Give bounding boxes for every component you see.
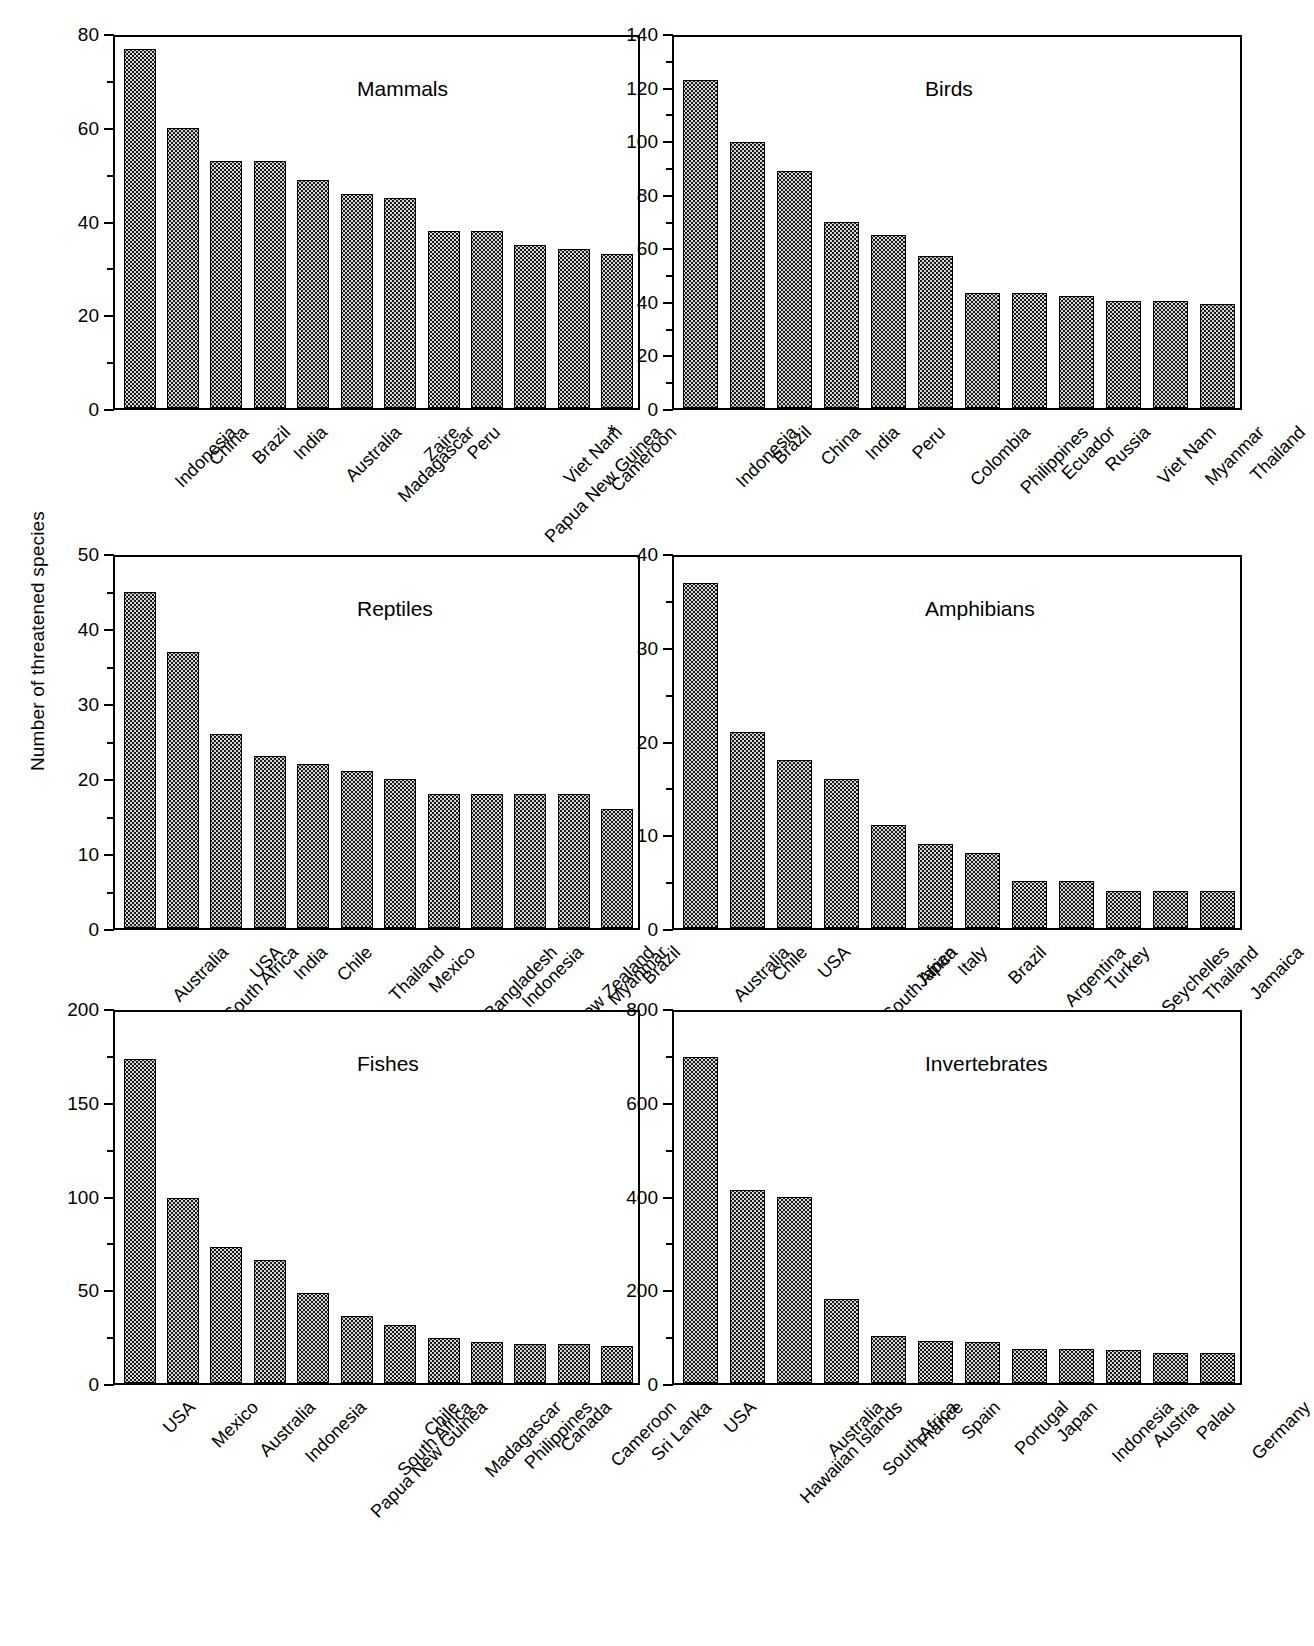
- y-tick-label: 100: [67, 1187, 99, 1209]
- bar-australia[interactable]: [210, 1247, 242, 1383]
- bar-viet-nam[interactable]: [1106, 301, 1141, 408]
- bar-usa[interactable]: [124, 1059, 156, 1384]
- bar-australia[interactable]: [297, 180, 329, 408]
- x-tick-label-australia: Australia: [342, 422, 406, 486]
- bar-portugal[interactable]: [965, 1342, 1000, 1383]
- y-tick-mark: [663, 302, 673, 304]
- bar-item[interactable]: [601, 254, 633, 408]
- bar-viet-nam[interactable]: [514, 245, 546, 408]
- bar-peru[interactable]: [428, 231, 460, 408]
- y-tick-mark: [104, 779, 114, 781]
- bar-thailand[interactable]: [1200, 304, 1235, 408]
- bar-china[interactable]: [167, 128, 199, 408]
- bar-south-africa[interactable]: [824, 779, 859, 928]
- bar-indonesia[interactable]: [1059, 1349, 1094, 1383]
- bar-india[interactable]: [824, 222, 859, 409]
- bar-indonesia[interactable]: [254, 1260, 286, 1383]
- bar-cameroon[interactable]: [558, 249, 590, 408]
- y-tick-label: 40: [78, 212, 99, 234]
- y-minor-tick: [107, 742, 114, 744]
- bar-spain[interactable]: [918, 1341, 953, 1383]
- x-tick-label-brazil: Brazil: [1004, 942, 1051, 989]
- bar-papua-new-guinea[interactable]: [297, 1293, 329, 1383]
- bar-india[interactable]: [254, 161, 286, 408]
- bar-madagascar[interactable]: [428, 1338, 460, 1383]
- bar-sri-lanka[interactable]: [601, 1346, 633, 1383]
- y-tick-mark: [104, 554, 114, 556]
- bar-seychelles[interactable]: [1106, 891, 1141, 928]
- bar-usa[interactable]: [683, 1057, 718, 1383]
- bar-myanmar[interactable]: [558, 794, 590, 928]
- bar-hawaiian-islands[interactable]: [730, 1190, 765, 1383]
- bar-chile[interactable]: [384, 1325, 416, 1383]
- bar-russia[interactable]: [1059, 296, 1094, 408]
- bar-indonesia[interactable]: [124, 49, 156, 408]
- x-tick-label-australia: Australia: [168, 942, 232, 1006]
- bar-japan[interactable]: [871, 825, 906, 928]
- bar-italy[interactable]: [918, 844, 953, 928]
- bar-canada[interactable]: [514, 1344, 546, 1383]
- bar-new-zealand[interactable]: [514, 794, 546, 928]
- x-tick-label-peru: Peru: [908, 422, 950, 464]
- y-tick-mark: [104, 929, 114, 931]
- y-minor-tick: [666, 1150, 673, 1152]
- bar-brazil[interactable]: [730, 142, 765, 408]
- bar-ecuador[interactable]: [1012, 293, 1047, 408]
- bar-cameroon[interactable]: [558, 1344, 590, 1383]
- x-axis-labels: USAMexicoAustraliaIndonesiaPapua New Gui…: [116, 1393, 637, 1613]
- bar-papua-new-guinea[interactable]: [471, 231, 503, 408]
- bar-series: [677, 1010, 1241, 1383]
- bar-chile[interactable]: [297, 764, 329, 928]
- y-tick-label: 30: [637, 638, 658, 660]
- bar-indonesia[interactable]: [471, 794, 503, 928]
- bar-south-africa[interactable]: [167, 652, 199, 928]
- bar-brazil[interactable]: [965, 853, 1000, 928]
- bar-bangladesh[interactable]: [428, 794, 460, 928]
- x-tick-label-italy: Italy: [953, 942, 991, 980]
- plot-area: Amphibians: [672, 555, 1242, 930]
- bar-myanmar[interactable]: [1153, 301, 1188, 408]
- bar-france[interactable]: [871, 1336, 906, 1383]
- bar-thailand[interactable]: [1153, 891, 1188, 928]
- bar-australia[interactable]: [124, 592, 156, 928]
- bar-australia[interactable]: [683, 583, 718, 928]
- bar-mexico[interactable]: [167, 1198, 199, 1383]
- bar-zaire[interactable]: [384, 198, 416, 408]
- y-minor-tick: [107, 175, 114, 177]
- bar-palau[interactable]: [1153, 1353, 1188, 1383]
- bar-peru[interactable]: [871, 235, 906, 408]
- y-tick-mark: [104, 629, 114, 631]
- bar-indonesia[interactable]: [683, 80, 718, 408]
- bar-south-africa[interactable]: [824, 1299, 859, 1383]
- bar-jamaica[interactable]: [1200, 891, 1235, 928]
- bar-usa[interactable]: [777, 760, 812, 928]
- y-minor-tick: [666, 222, 673, 224]
- bar-chile[interactable]: [730, 732, 765, 928]
- y-tick-mark: [104, 1197, 114, 1199]
- bar-germany[interactable]: [1200, 1353, 1235, 1383]
- bar-philippines[interactable]: [965, 293, 1000, 408]
- y-minor-tick: [666, 114, 673, 116]
- bar-australia[interactable]: [777, 1197, 812, 1384]
- plot-area: Reptiles: [113, 555, 640, 930]
- bar-india[interactable]: [254, 756, 286, 928]
- y-tick-mark: [663, 1103, 673, 1105]
- bar-thailand[interactable]: [341, 771, 373, 928]
- y-minor-tick: [666, 1056, 673, 1058]
- bar-series: [118, 555, 639, 928]
- bar-austria[interactable]: [1106, 1350, 1141, 1383]
- bar-south-africa[interactable]: [341, 1316, 373, 1383]
- bar-turkey[interactable]: [1059, 881, 1094, 928]
- bar-usa[interactable]: [210, 734, 242, 928]
- bar-brazil[interactable]: [601, 809, 633, 928]
- bar-japan[interactable]: [1012, 1349, 1047, 1383]
- x-tick-label-india: India: [861, 422, 903, 464]
- bar-madagascar[interactable]: [341, 194, 373, 408]
- bar-colombia[interactable]: [918, 256, 953, 408]
- bar-argentina[interactable]: [1012, 881, 1047, 928]
- bar-brazil[interactable]: [210, 161, 242, 408]
- bar-mexico[interactable]: [384, 779, 416, 928]
- y-tick-mark: [663, 1197, 673, 1199]
- bar-philippines[interactable]: [471, 1342, 503, 1383]
- bar-china[interactable]: [777, 171, 812, 408]
